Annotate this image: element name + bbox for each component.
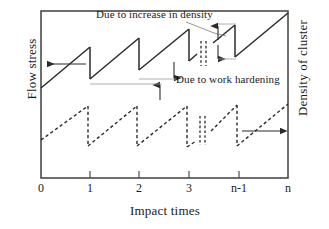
- x-tick-label-2: 2: [119, 181, 159, 196]
- annotation-work-hardening: Due to work hardening: [176, 73, 280, 85]
- leader-hardening-up-arrow: [90, 84, 162, 100]
- x-tick-label-3: 3: [169, 181, 209, 196]
- x-tick-label-n: n: [268, 181, 308, 196]
- series-density-of-cluster: [41, 104, 288, 147]
- y-axis-right-title: Density of cluster: [295, 0, 311, 158]
- axis-break-marks-upper: [201, 41, 206, 66]
- annotation-increase-in-density: Due to increase in density: [96, 8, 213, 20]
- x-tick-label-n-minus-1: n-1: [219, 181, 259, 196]
- jump-height-double-arrow: [218, 24, 236, 59]
- y-axis-left-title: Flow stress: [24, 0, 40, 149]
- x-tick-label-0: 0: [21, 181, 61, 196]
- plot-frame: [41, 11, 288, 178]
- x-axis-title: Impact times: [41, 203, 289, 219]
- x-tick-label-1: 1: [70, 181, 110, 196]
- x-axis-ticks: [90, 171, 239, 178]
- axis-break-marks-lower: [200, 116, 205, 145]
- figure-root: Flow stress Density of cluster Impact ti…: [0, 0, 329, 229]
